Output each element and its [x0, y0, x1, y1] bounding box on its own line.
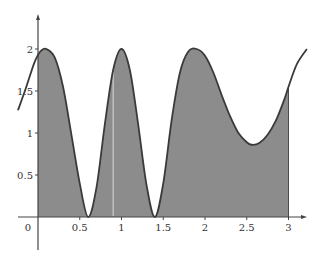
x-axis-arrow-icon [301, 215, 307, 219]
x-tick-label: 2 [202, 222, 208, 233]
y-tick-label: 2 [27, 44, 33, 55]
x-tick-label: 1 [118, 222, 124, 233]
plot-area: 00.511.522.530.511.52 [0, 0, 322, 264]
x-tick-label: 3 [285, 222, 291, 233]
y-tick-label: 0.5 [17, 170, 33, 181]
y-axis-arrow-icon [36, 14, 40, 20]
x-tick-label: 0.5 [72, 222, 88, 233]
x-tick-label: 0 [25, 222, 31, 233]
x-tick-label: 1.5 [155, 222, 171, 233]
x-tick-label: 2.5 [239, 222, 255, 233]
y-tick-label: 1 [27, 128, 33, 139]
shaded-area [38, 48, 289, 217]
